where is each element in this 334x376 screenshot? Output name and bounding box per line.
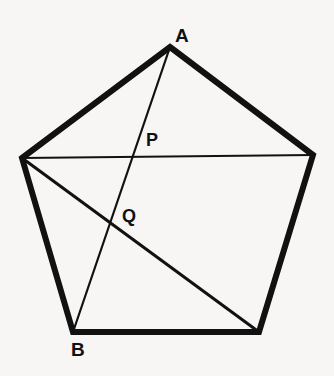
diagonal-left-to-lower-right-line: [22, 158, 259, 332]
geometry-canvas: [0, 0, 334, 376]
point-label-q: Q: [122, 207, 136, 225]
vertex-label-a: A: [175, 26, 189, 45]
segment-ab-line: [73, 47, 170, 332]
vertex-label-b: B: [71, 340, 85, 359]
geometry-figure: A B P Q: [0, 0, 334, 376]
horizontal-diagonal-line: [22, 155, 313, 158]
point-label-p: P: [146, 131, 158, 149]
